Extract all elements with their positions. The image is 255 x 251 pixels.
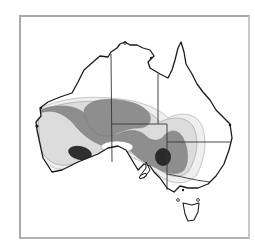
- zone-core-east: [155, 148, 171, 166]
- tasmania: [183, 203, 199, 221]
- kangaroo-island: [139, 173, 148, 180]
- city-dot-brisbane: [229, 124, 232, 127]
- australia-map: [0, 0, 255, 251]
- city-dot-perth: [35, 124, 38, 127]
- zone-clear-patch: [101, 141, 133, 153]
- city-dot-geraldton: [40, 107, 42, 109]
- island-dot-2: [197, 199, 200, 202]
- island-dot-groote: [150, 57, 152, 59]
- city-dot-melbourne: [182, 189, 184, 191]
- island-dot-1: [177, 199, 180, 202]
